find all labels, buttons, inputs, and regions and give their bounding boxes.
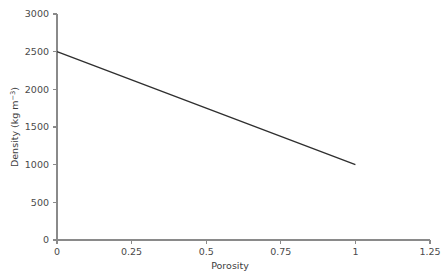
x-tick-label: 0.25 <box>121 246 142 257</box>
chart-background <box>0 0 447 276</box>
y-tick-label: 1500 <box>25 121 49 132</box>
x-axis-title: Porosity <box>211 260 249 271</box>
x-tick-label: 1 <box>352 246 358 257</box>
density-porosity-line-chart: 050010001500200025003000 00.250.50.7511.… <box>0 0 447 276</box>
x-tick-label: 1.25 <box>419 246 440 257</box>
y-tick-label: 1000 <box>25 159 49 170</box>
chart-figure: 050010001500200025003000 00.250.50.7511.… <box>0 0 447 276</box>
y-axis-title-base: Density (kg m <box>9 100 20 167</box>
y-axis-title-superscript: −3 <box>9 91 17 101</box>
y-tick-label: 0 <box>43 234 49 245</box>
x-tick-label: 0.75 <box>270 246 291 257</box>
y-tick-label: 2500 <box>25 46 49 57</box>
y-tick-label: 500 <box>31 197 49 208</box>
y-tick-label: 2000 <box>25 84 49 95</box>
y-tick-label: 3000 <box>25 8 49 19</box>
y-axis-title-close: ) <box>9 87 20 91</box>
x-tick-label: 0 <box>54 246 60 257</box>
x-tick-label: 0.5 <box>199 246 214 257</box>
